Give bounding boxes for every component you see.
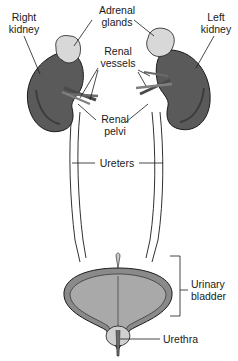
label-right-kidney: Right kidney: [2, 11, 46, 35]
label-left-kidney-line2: kidney: [195, 23, 237, 35]
label-left-kidney: Left kidney: [195, 11, 237, 35]
label-bladder-line1: Urinary: [191, 278, 237, 290]
label-renal-vessels-line2: vessels: [92, 57, 144, 69]
label-left-kidney-line1: Left: [195, 11, 237, 23]
label-renal-vessels: Renal vessels: [92, 45, 144, 69]
label-renal-vessels-line1: Renal: [92, 45, 144, 57]
label-bladder-line2: bladder: [191, 290, 237, 302]
urethra: [106, 326, 130, 356]
label-renal-pelvi-line1: Renal: [94, 113, 136, 125]
label-renal-pelvi-line2: pelvi: [94, 125, 136, 137]
label-urinary-bladder: Urinary bladder: [191, 278, 237, 302]
left-adrenal-gland: [147, 28, 175, 56]
label-right-kidney-line2: kidney: [2, 23, 46, 35]
label-adrenal-glands: Adrenal glands: [89, 4, 145, 28]
label-adrenal-line1: Adrenal: [89, 4, 145, 16]
label-renal-pelvi: Renal pelvi: [94, 113, 136, 137]
label-right-kidney-line1: Right: [2, 11, 46, 23]
left-kidney: [156, 50, 210, 130]
label-urethra: Urethra: [163, 333, 213, 345]
label-ureters: Ureters: [95, 157, 139, 169]
label-adrenal-line2: glands: [89, 16, 145, 28]
